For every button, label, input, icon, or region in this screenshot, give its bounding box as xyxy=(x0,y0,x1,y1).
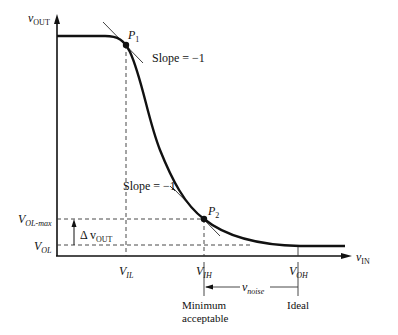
noise-label: vnoise xyxy=(242,281,264,296)
vil-label: VIL xyxy=(119,265,133,280)
p2-slope-label: Slope = −1 xyxy=(123,180,176,192)
delta-arrow-icon xyxy=(72,219,77,227)
minimum-label: Minimum xyxy=(182,300,226,311)
vol-max-label: VOL-max xyxy=(18,213,52,228)
y-axis-arrow-icon xyxy=(54,14,60,24)
noise-arrow-icon xyxy=(205,285,213,290)
p1-label: P1 xyxy=(128,29,139,44)
x-axis-label: vIN xyxy=(356,251,370,266)
vol-label: VOL xyxy=(34,240,52,255)
p2-dot xyxy=(201,216,207,222)
ideal-label: Ideal xyxy=(287,300,309,311)
acceptable-label: acceptable xyxy=(182,313,228,324)
vih-label: VIH xyxy=(196,265,212,280)
y-axis-label: vOUT xyxy=(28,12,50,27)
transfer-curve xyxy=(57,36,345,246)
delta-vout-label: Δ vOUT xyxy=(80,229,113,244)
voh-label: VOH xyxy=(289,265,308,280)
x-axis-arrow-icon xyxy=(341,253,352,259)
p1-slope-label: Slope = −1 xyxy=(152,52,205,64)
p2-label: P2 xyxy=(208,205,219,220)
